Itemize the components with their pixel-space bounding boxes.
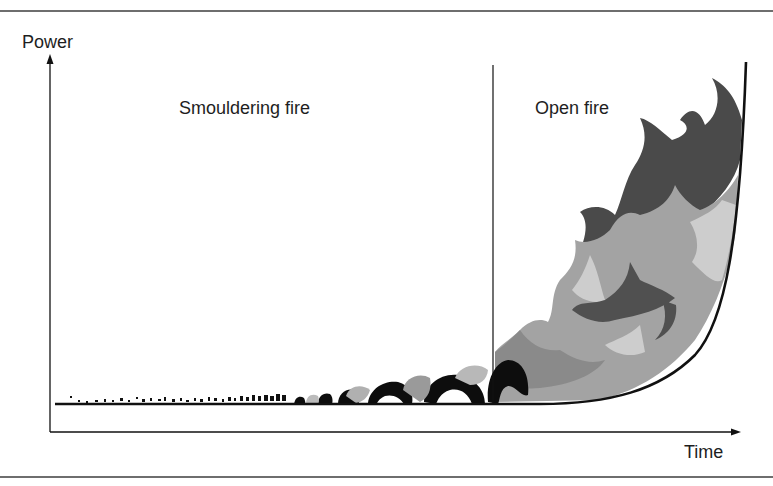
smoke-black-blob — [318, 393, 333, 404]
x-axis-arrowhead-icon — [731, 429, 741, 436]
y-axis-label: Power — [22, 33, 73, 51]
phase-label-open-fire: Open fire — [535, 99, 609, 117]
smoke-illustration — [70, 360, 528, 404]
smoulder-particles — [70, 394, 286, 403]
phase-label-smouldering: Smouldering fire — [179, 99, 310, 117]
y-axis-arrowhead-icon — [47, 54, 54, 64]
x-axis-label: Time — [684, 443, 723, 461]
flames-illustration — [495, 78, 742, 402]
smoke-light-blob — [306, 395, 319, 404]
fire-development-diagram: Power Time Smouldering fire Open fire — [0, 0, 773, 486]
diagram-graphics — [0, 0, 773, 486]
